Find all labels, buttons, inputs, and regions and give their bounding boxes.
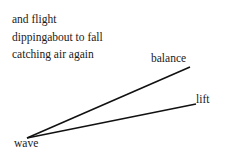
lift-label: lift (196, 93, 209, 105)
balance-label: balance (151, 52, 186, 64)
balance-line (27, 67, 190, 138)
wave-label: wave (14, 137, 38, 149)
diagram-lines (0, 0, 225, 153)
lift-line (27, 104, 196, 138)
